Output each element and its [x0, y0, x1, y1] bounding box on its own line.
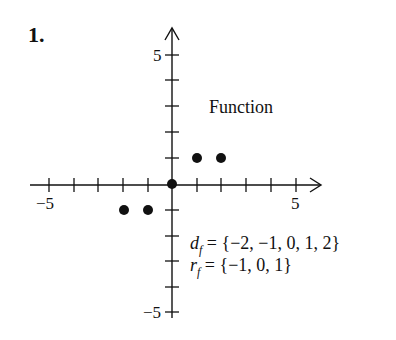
- y-tick-label-neg5: −5: [143, 304, 161, 321]
- data-point: [119, 205, 129, 215]
- x-tick-label-neg5: −5: [36, 195, 54, 212]
- chart-title: Function: [209, 97, 273, 118]
- coordinate-plane: [0, 0, 396, 340]
- domain-annotation: df = {−2, −1, 0, 1, 2}: [190, 233, 340, 258]
- data-point: [167, 179, 177, 189]
- data-point: [216, 153, 226, 163]
- data-point: [143, 205, 153, 215]
- y-tick-label-5: 5: [153, 47, 162, 64]
- x-tick-label-5: 5: [291, 195, 300, 212]
- range-set: = {−1, 0, 1}: [200, 255, 292, 275]
- range-annotation: rf = {−1, 0, 1}: [190, 255, 292, 280]
- domain-set: = {−2, −1, 0, 1, 2}: [202, 233, 340, 253]
- domain-symbol: d: [190, 233, 199, 253]
- data-point: [192, 153, 202, 163]
- range-symbol: r: [190, 255, 197, 275]
